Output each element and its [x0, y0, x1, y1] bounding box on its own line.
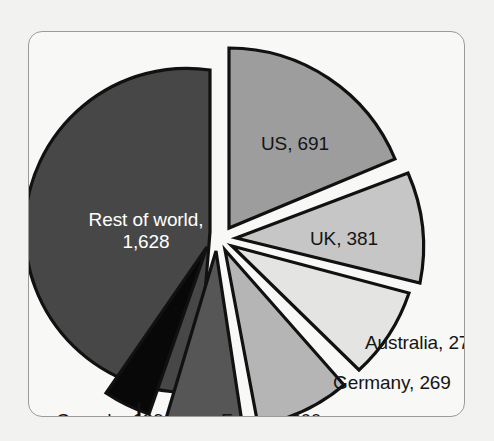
- figure-root: US, 691 UK, 381 Australia, 273 Germany, …: [0, 0, 494, 441]
- pie-label-germany: Germany, 269: [333, 372, 451, 394]
- pie-label-rest-of-world-line1: Rest of world,: [89, 209, 204, 230]
- pie-chart-frame: US, 691 UK, 381 Australia, 273 Germany, …: [28, 31, 465, 417]
- pie-label-us: US, 691: [261, 133, 329, 155]
- pie-label-canada: Canada, 199: [56, 410, 164, 417]
- pie-label-australia: Australia, 273: [365, 332, 465, 354]
- pie-label-uk: UK, 381: [310, 228, 378, 250]
- pie-label-rest-of-world: Rest of world, 1,628: [70, 209, 222, 253]
- pie-label-france: France, 260: [221, 410, 321, 417]
- pie-label-rest-of-world-line2: 1,628: [122, 231, 169, 252]
